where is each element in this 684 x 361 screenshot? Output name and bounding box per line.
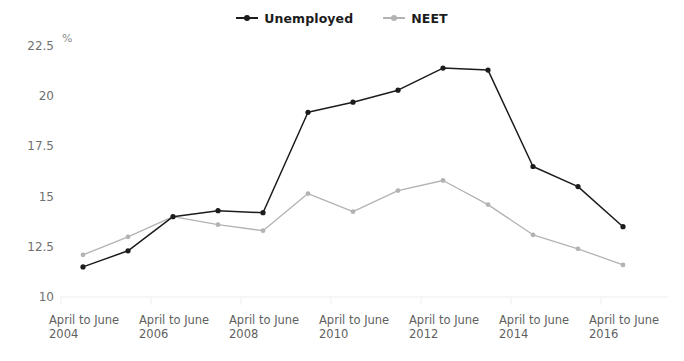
x-tick-line1: April to June [499, 313, 569, 327]
data-point[interactable] [261, 228, 266, 233]
x-axis-tick-label: April to June2012 [409, 313, 479, 341]
x-tick-line2: 2010 [319, 327, 389, 341]
x-tick-line1: April to June [229, 313, 299, 327]
data-point[interactable] [440, 66, 445, 71]
data-point[interactable] [620, 224, 625, 229]
data-point[interactable] [575, 184, 580, 189]
x-tick-line2: 2004 [49, 327, 119, 341]
x-axis-tick-label: April to June2014 [499, 313, 569, 341]
x-axis-tick-label: April to June2004 [49, 313, 119, 341]
data-point[interactable] [215, 208, 220, 213]
data-point[interactable] [395, 88, 400, 93]
x-axis-tick-label: April to June2010 [319, 313, 389, 341]
data-point[interactable] [350, 100, 355, 105]
line-chart: Unemployed NEET % 1012.51517.52022.5 Apr… [0, 0, 684, 361]
data-point[interactable] [621, 263, 626, 268]
data-point[interactable] [441, 178, 446, 183]
data-point[interactable] [216, 222, 221, 227]
data-point[interactable] [80, 264, 85, 269]
x-tick-line1: April to June [319, 313, 389, 327]
data-point[interactable] [486, 202, 491, 207]
x-tick-line1: April to June [409, 313, 479, 327]
data-point[interactable] [305, 110, 310, 115]
x-tick-line2: 2012 [409, 327, 479, 341]
x-axis-tick-label: April to June2008 [229, 313, 299, 341]
data-point[interactable] [351, 209, 356, 214]
x-tick-line2: 2008 [229, 327, 299, 341]
x-axis-tick-label: April to June2016 [589, 313, 659, 341]
x-axis-tick-label: April to June2006 [139, 313, 209, 341]
data-point[interactable] [485, 68, 490, 73]
data-point[interactable] [170, 214, 175, 219]
x-tick-line2: 2006 [139, 327, 209, 341]
x-axis: April to June2004April to June2006April … [0, 305, 684, 361]
data-point[interactable] [81, 252, 86, 257]
x-tick-line2: 2016 [589, 327, 659, 341]
data-point[interactable] [396, 188, 401, 193]
data-point[interactable] [260, 210, 265, 215]
data-point[interactable] [531, 232, 536, 237]
x-tick-line1: April to June [139, 313, 209, 327]
x-tick-line1: April to June [589, 313, 659, 327]
data-point[interactable] [125, 248, 130, 253]
x-tick-line1: April to June [49, 313, 119, 327]
x-tick-line2: 2014 [499, 327, 569, 341]
data-point[interactable] [576, 246, 581, 251]
data-point[interactable] [126, 234, 131, 239]
data-point[interactable] [530, 164, 535, 169]
data-point[interactable] [306, 191, 311, 196]
